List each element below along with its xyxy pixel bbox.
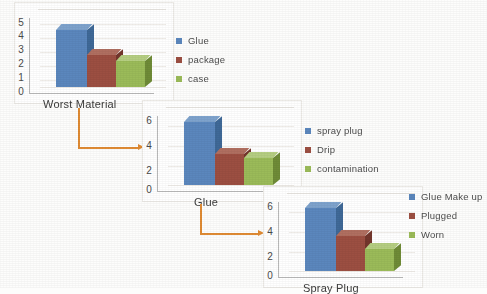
legend-label: Plugged: [421, 211, 457, 221]
legend-swatch-blue-icon: [409, 194, 415, 200]
legend-swatch-red-icon: [409, 213, 415, 219]
legend-label: contamination: [317, 164, 379, 174]
bar-glue-make-up: [305, 208, 336, 271]
legend-glue: spray plug Drip contamination: [305, 126, 379, 183]
bar-front-face: [244, 158, 273, 185]
legend-item[interactable]: Plugged: [409, 211, 483, 221]
y-tick-label: 0: [2, 87, 24, 97]
floor-line: [40, 87, 166, 88]
backwall-top-edge: [38, 9, 166, 10]
y-tick-label: 2: [2, 59, 24, 69]
bar-glue: [56, 30, 87, 87]
bar-front-face: [87, 55, 116, 87]
legend-item[interactable]: contamination: [305, 164, 379, 174]
y-tick-label: 0: [130, 185, 152, 195]
chart-worst-material: 5 4 3 2 1 0 Worst Material: [14, 2, 172, 102]
bar-front-face: [305, 208, 336, 271]
legend-spray-plug: Glue Make up Plugged Worn: [409, 192, 483, 249]
legend-swatch-green-icon: [305, 166, 311, 172]
gridline: [289, 271, 415, 272]
y-tick-label: 4: [251, 227, 273, 237]
y-tick-label: 4: [2, 31, 24, 41]
y-axis-line: [157, 116, 158, 191]
backwall-top-edge: [287, 193, 415, 194]
y-tick-label: 0: [251, 271, 273, 281]
backwall-top-edge: [166, 107, 294, 108]
bar-drip: [215, 154, 244, 185]
bar-contamination: [244, 158, 273, 185]
legend-swatch-green-icon: [176, 76, 182, 82]
legend-item[interactable]: package: [176, 55, 225, 65]
chart-spray-plug: 6 4 2 0 Spray Plug: [263, 186, 421, 286]
chart-title-spray-plug: Spray Plug: [303, 282, 359, 294]
bar-front-face: [336, 236, 365, 271]
legend-label: Drip: [317, 145, 335, 155]
legend-swatch-red-icon: [176, 57, 182, 63]
legend-item[interactable]: spray plug: [305, 126, 379, 136]
bar-worn: [365, 249, 394, 271]
legend-item[interactable]: Drip: [305, 145, 379, 155]
y-tick-label: 5: [2, 18, 24, 28]
y-axis-line: [29, 18, 30, 93]
bar-front-face: [365, 249, 394, 271]
legend-swatch-blue-icon: [305, 128, 311, 134]
y-tick-label: 4: [130, 141, 152, 151]
bar-front-face: [56, 30, 87, 87]
y-tick-label: 1: [2, 73, 24, 83]
chart-glue: 6 4 2 0 Glue: [142, 100, 300, 200]
legend-label: Glue: [188, 36, 209, 46]
y-tick-label: 6: [251, 202, 273, 212]
bar-plugged: [336, 236, 365, 271]
connector-vertical-segment: [200, 204, 202, 234]
legend-label: Worn: [421, 230, 444, 240]
bar-spray-plug: [184, 122, 215, 185]
y-tick-label: 2: [130, 166, 152, 176]
legend-swatch-red-icon: [305, 147, 311, 153]
connector-vertical-segment: [78, 108, 80, 148]
bar-package: [87, 55, 116, 87]
bar-case: [116, 61, 145, 87]
y-tick-label: 3: [2, 45, 24, 55]
bar-front-face: [215, 154, 244, 185]
legend-worst-material: Glue package case: [176, 36, 225, 93]
legend-swatch-green-icon: [409, 232, 415, 238]
legend-label: Glue Make up: [421, 192, 483, 202]
y-tick-label: 6: [130, 116, 152, 126]
legend-item[interactable]: Worn: [409, 230, 483, 240]
legend-item[interactable]: Glue: [176, 36, 225, 46]
legend-label: case: [188, 74, 209, 84]
x-axis-line: [29, 93, 154, 94]
legend-item[interactable]: Glue Make up: [409, 192, 483, 202]
legend-swatch-blue-icon: [176, 38, 182, 44]
y-tick-label: 2: [251, 252, 273, 262]
legend-label: spray plug: [317, 126, 363, 136]
y-axis-line: [278, 202, 279, 277]
bar-front-face: [116, 61, 145, 87]
x-axis-line: [278, 277, 403, 278]
legend-label: package: [188, 55, 225, 65]
bar-front-face: [184, 122, 215, 185]
legend-item[interactable]: case: [176, 74, 225, 84]
